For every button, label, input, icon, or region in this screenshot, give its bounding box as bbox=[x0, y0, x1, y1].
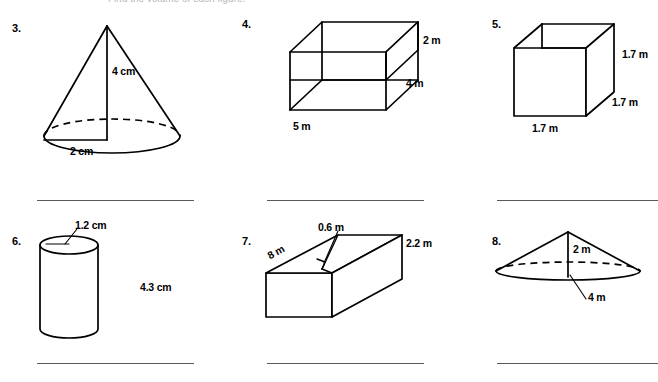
problem-4: 4. 2 m 4 m 5 m bbox=[230, 12, 480, 187]
wide-cone-figure bbox=[488, 227, 653, 327]
cropped-header: Find the volume of each figure. bbox=[0, 0, 658, 6]
problem-7: 7. 0.6 m 2.2 m 8 m bbox=[230, 215, 480, 365]
problem-6: 6. 1.2 cm 4.3 cm bbox=[0, 215, 230, 365]
prism-height-label: 2 m bbox=[423, 34, 441, 46]
answer-line-3[interactable] bbox=[37, 200, 194, 201]
answer-line-5[interactable] bbox=[497, 200, 658, 201]
cone-base-back-arc bbox=[44, 119, 180, 136]
cube-width-label: 1.7 m bbox=[532, 122, 558, 134]
cylinder-figure bbox=[34, 225, 144, 350]
problem-4-number: 4. bbox=[242, 18, 251, 30]
long-prism-width-label: 0.6 m bbox=[318, 221, 344, 233]
cone-slant-left bbox=[44, 26, 107, 136]
cylinder-radius-label: 1.2 cm bbox=[75, 219, 107, 231]
prism-front-face bbox=[290, 80, 386, 110]
cone-base-front-arc bbox=[44, 136, 180, 153]
cropped-header-text: Find the volume of each figure. bbox=[108, 0, 245, 4]
long-prism-height-label: 2.2 m bbox=[406, 237, 432, 249]
cube-right-face bbox=[586, 24, 614, 116]
prism-depth-label: 4 m bbox=[406, 77, 424, 89]
problem-5-number: 5. bbox=[492, 18, 501, 30]
cube-figure bbox=[506, 16, 636, 141]
answer-line-7[interactable] bbox=[267, 363, 424, 364]
cube-depth-label: 1.7 m bbox=[612, 96, 638, 108]
answer-line-6[interactable] bbox=[37, 363, 194, 364]
problem-8: 8. 2 m 4 m bbox=[480, 215, 658, 365]
cylinder-height-label: 4.3 cm bbox=[140, 281, 172, 293]
problem-6-number: 6. bbox=[12, 235, 21, 247]
problem-3-number: 3. bbox=[12, 22, 21, 34]
wide-cone-height-label: 2 m bbox=[573, 243, 591, 255]
cone-figure bbox=[28, 18, 208, 168]
cone-radius-label: 2 cm bbox=[70, 145, 93, 157]
cylinder-body bbox=[40, 245, 98, 338]
prism-width-label: 5 m bbox=[293, 120, 311, 132]
answer-line-4[interactable] bbox=[267, 200, 424, 201]
worksheet-page: Find the volume of each figure. 3. 4 cm … bbox=[0, 0, 658, 382]
cube-top-left-diagonal bbox=[514, 24, 542, 48]
cone-height-label: 4 cm bbox=[112, 65, 135, 77]
wide-cone-slant-left bbox=[496, 232, 568, 271]
wide-cone-radius-leader bbox=[570, 275, 586, 299]
problem-7-number: 7. bbox=[242, 235, 251, 247]
wide-cone-radius-label: 4 m bbox=[588, 291, 606, 303]
cube-height-label: 1.7 m bbox=[622, 48, 648, 60]
problem-3: 3. 4 cm 2 cm bbox=[0, 12, 230, 187]
cube-front-face bbox=[514, 48, 586, 116]
long-prism-front-face bbox=[266, 273, 332, 317]
problem-5: 5. 1.7 m 1.7 m 1.7 m bbox=[480, 12, 658, 187]
answer-line-8[interactable] bbox=[497, 363, 658, 364]
